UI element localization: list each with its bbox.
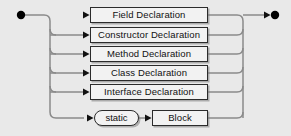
node-label: Interface Declaration (104, 87, 194, 97)
arrow-into-block (145, 114, 152, 121)
arrow-into-class-declaration (83, 69, 90, 76)
arrow-into-static-keyword (87, 114, 94, 121)
node-interface-declaration[interactable]: Interface Declaration (90, 84, 208, 100)
node-field-declaration[interactable]: Field Declaration (90, 7, 208, 23)
arrow-into-constructor-declaration (83, 31, 90, 38)
node-class-declaration[interactable]: Class Declaration (90, 65, 208, 81)
arrow-into-end-terminator (264, 11, 271, 18)
start-terminator (17, 11, 25, 19)
railroad-diagram: Field Declaration Constructor Declaratio… (0, 0, 291, 136)
node-label: static (105, 113, 127, 123)
node-label: Constructor Declaration (98, 30, 200, 40)
arrow-into-method-declaration (83, 50, 90, 57)
rail-corner-class (50, 67, 56, 73)
node-constructor-declaration[interactable]: Constructor Declaration (90, 27, 208, 43)
node-block[interactable]: Block (152, 110, 208, 126)
rail-exit-method (208, 48, 243, 54)
arrow-into-interface-declaration (83, 88, 90, 95)
rail-corner-constructor (50, 29, 56, 35)
rail-corner-interface (50, 86, 56, 92)
rail-exit-block (208, 112, 243, 118)
node-label: Method Declaration (107, 49, 191, 59)
arrow-into-field-declaration (83, 11, 90, 18)
node-static-keyword[interactable]: static (94, 110, 139, 126)
rail-exit-constructor (208, 29, 243, 35)
rail-exit-interface (208, 86, 243, 92)
rail-corner-method (50, 48, 56, 54)
node-label: Field Declaration (113, 10, 186, 20)
rail-right-spine (208, 15, 243, 118)
node-label: Block (168, 113, 192, 123)
node-method-declaration[interactable]: Method Declaration (90, 46, 208, 62)
node-label: Class Declaration (111, 68, 187, 78)
rail-exit-class (208, 67, 243, 73)
end-terminator (271, 11, 279, 19)
